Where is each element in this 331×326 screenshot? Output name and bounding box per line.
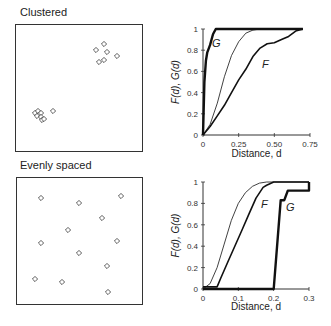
y-tick-label: 0.6 (187, 67, 199, 76)
y-tick-label: 1 (194, 25, 199, 34)
point-marker (99, 215, 104, 220)
point-marker (32, 276, 37, 281)
curve-f (203, 182, 309, 287)
point-marker (114, 53, 119, 58)
figure-svg: 00.20.40.60.8100.250.500.75Distance, dF(… (0, 0, 331, 326)
x-axis-label: Distance, d (231, 301, 281, 312)
x-tick-label: 0.75 (302, 140, 318, 149)
point-marker (59, 279, 64, 284)
point-marker (114, 238, 119, 243)
point-marker (76, 250, 81, 255)
y-tick-label: 0.2 (187, 264, 199, 273)
y-tick-label: 0.8 (187, 46, 199, 55)
curve-label-f: F (262, 58, 270, 70)
x-tick-label: 0 (201, 140, 206, 149)
point-marker (101, 57, 106, 62)
point-marker (93, 47, 98, 52)
curve-label-f: F (261, 198, 269, 210)
y-tick-label: 0 (194, 131, 199, 140)
y-axis-label: F(d), G(d) (170, 60, 181, 104)
point-marker (76, 200, 81, 205)
y-tick-label: 0.4 (187, 242, 199, 251)
x-tick-label: 0.3 (303, 294, 315, 303)
point-marker (65, 227, 70, 232)
y-axis-label: F(d), G(d) (170, 214, 181, 258)
point-marker (118, 193, 123, 198)
y-tick-label: 0.2 (187, 110, 199, 119)
point-marker (101, 41, 106, 46)
x-axis-label: Distance, d (231, 148, 281, 159)
y-tick-label: 0.8 (187, 199, 199, 208)
point-marker (38, 195, 43, 200)
point-marker (96, 59, 101, 64)
point-marker (50, 108, 55, 113)
point-marker (38, 240, 43, 245)
curve-label-g: G (286, 201, 295, 213)
point-marker (105, 289, 110, 294)
x-tick-label: 0 (201, 294, 206, 303)
y-tick-label: 0 (194, 285, 199, 294)
curve-label-g: G (212, 37, 221, 49)
point-marker (104, 49, 109, 54)
point-marker (104, 263, 109, 268)
y-tick-label: 1 (194, 178, 199, 187)
y-tick-label: 0.4 (187, 89, 199, 98)
y-tick-label: 0.6 (187, 221, 199, 230)
